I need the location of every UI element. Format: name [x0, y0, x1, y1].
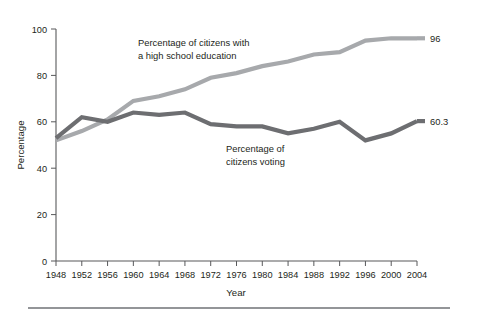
voting-annotation-line-0: Percentage of	[226, 143, 285, 154]
y-tick-group-40: 40	[37, 164, 56, 174]
x-tick-label-1976: 1976	[226, 270, 246, 280]
y-tick-group-80: 80	[37, 71, 56, 81]
x-tick-label-1964: 1964	[149, 270, 169, 280]
y-tick-group-0: 0	[42, 257, 56, 267]
x-tick-label-1968: 1968	[175, 270, 195, 280]
footer-divider	[28, 307, 450, 309]
x-tick-label-1992: 1992	[329, 270, 349, 280]
x-tick-label-1996: 1996	[355, 270, 375, 280]
x-tick-label-2004: 2004	[407, 270, 427, 280]
x-tick-label-1952: 1952	[72, 270, 92, 280]
education-annotation: Percentage of citizens witha high school…	[138, 37, 250, 61]
chart-figure: 100 80 60 40 20 0 Percentage	[0, 0, 478, 321]
series-end-label-1: 60.3	[430, 116, 448, 127]
x-tick-group: 1948195219561960196419681972197619801984…	[46, 261, 427, 280]
y-tick-label-60: 60	[37, 117, 47, 127]
line-chart: 100 80 60 40 20 0 Percentage	[0, 0, 478, 321]
x-tick-label-1980: 1980	[252, 270, 272, 280]
y-tick-group-100: 100	[32, 25, 56, 35]
series-layer: 9660.3	[56, 33, 448, 141]
education-annotation-line-0: Percentage of citizens with	[138, 37, 250, 48]
x-tick-label-2000: 2000	[381, 270, 401, 280]
education-annotation-line-1: a high school education	[138, 50, 237, 61]
y-tick-label-80: 80	[37, 71, 47, 81]
x-tick-label-1948: 1948	[46, 270, 66, 280]
x-tick-label-1988: 1988	[304, 270, 324, 280]
x-tick-label-1984: 1984	[278, 270, 298, 280]
x-tick-label-1960: 1960	[123, 270, 143, 280]
series-end-label-0: 96	[430, 33, 440, 44]
voting-annotation-line-1: citizens voting	[226, 156, 285, 167]
annotation-layer: Percentage of citizens witha high school…	[138, 37, 285, 167]
y-tick-group-20: 20	[37, 210, 56, 220]
x-tick-label-1956: 1956	[97, 270, 117, 280]
x-tick-label-1972: 1972	[200, 270, 220, 280]
y-tick-label-0: 0	[42, 257, 47, 267]
y-axis-title: Percentage	[15, 120, 26, 169]
voting-annotation: Percentage ofcitizens voting	[226, 143, 285, 167]
x-axis-title: Year	[226, 287, 246, 298]
y-tick-group-60: 60	[37, 117, 56, 127]
y-axis: 100 80 60 40 20 0 Percentage	[15, 25, 56, 267]
y-tick-label-40: 40	[37, 164, 47, 174]
y-tick-label-20: 20	[37, 210, 47, 220]
y-tick-label-100: 100	[32, 25, 47, 35]
x-axis: 1948195219561960196419681972197619801984…	[46, 261, 427, 298]
